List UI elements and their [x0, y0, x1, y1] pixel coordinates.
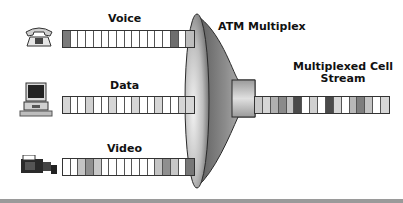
atm-cell [155, 159, 163, 175]
atm-cell [279, 97, 287, 113]
atm-cell [326, 97, 334, 113]
atm-cell [171, 159, 179, 175]
video-cell-row [62, 158, 195, 176]
atm-cell [109, 31, 117, 47]
data-cell-row [62, 96, 195, 114]
atm-cell [125, 31, 133, 47]
atm-cell [381, 97, 389, 113]
atm-cell [102, 97, 110, 113]
atm-cell [148, 159, 156, 175]
atm-cell [140, 159, 148, 175]
atm-cell [357, 97, 365, 113]
atm-cell [109, 97, 117, 113]
video-label: Video [107, 143, 142, 155]
atm-cell [63, 97, 71, 113]
atm-cell [102, 31, 110, 47]
atm-cell [334, 97, 342, 113]
atm-cell [179, 97, 187, 113]
atm-cell [179, 31, 187, 47]
atm-cell [302, 97, 310, 113]
data-label: Data [110, 80, 139, 92]
atm-cell [94, 97, 102, 113]
atm-cell [86, 31, 94, 47]
atm-cell [287, 97, 295, 113]
atm-cell [71, 97, 79, 113]
atm-cell [117, 159, 125, 175]
atm-cell [78, 31, 86, 47]
atm-cell [373, 97, 381, 113]
telephone-icon [24, 26, 54, 52]
atm-cell [148, 97, 156, 113]
atm-cell [94, 31, 102, 47]
atm-cell [155, 97, 163, 113]
atm-cell [310, 97, 318, 113]
atm-cell [148, 31, 156, 47]
atm-cell [71, 31, 79, 47]
atm-cell [63, 31, 71, 47]
atm-cell [171, 31, 179, 47]
atm-cell [140, 97, 148, 113]
output-label: Multiplexed Cell Stream [293, 61, 393, 85]
atm-cell [294, 97, 302, 113]
atm-cell [179, 159, 187, 175]
bottom-rule [0, 199, 403, 203]
voice-label: Voice [108, 13, 141, 25]
video-camera-icon [19, 155, 59, 181]
atm-cell [132, 159, 140, 175]
atm-cell [94, 159, 102, 175]
atm-cell [140, 31, 148, 47]
atm-cell [163, 31, 171, 47]
atm-cell [365, 97, 373, 113]
atm-cell [163, 159, 171, 175]
output-label-line2: Stream [293, 73, 393, 85]
atm-cell [318, 97, 326, 113]
atm-cell [63, 159, 71, 175]
atm-cell [186, 31, 194, 47]
atm-cell [125, 97, 133, 113]
atm-cell [86, 159, 94, 175]
atm-cell [171, 97, 179, 113]
atm-cell [263, 97, 271, 113]
computer-icon [18, 82, 54, 122]
atm-cell [102, 159, 110, 175]
atm-cell [342, 97, 350, 113]
atm-cell [186, 159, 194, 175]
atm-cell [78, 97, 86, 113]
atm-cell [117, 97, 125, 113]
atm-cell [109, 159, 117, 175]
multiplexed-cell-row [254, 96, 390, 114]
atm-cell [155, 31, 163, 47]
atm-cell [78, 159, 86, 175]
atm-cell [132, 31, 140, 47]
atm-cell [86, 97, 94, 113]
atm-cell [255, 97, 263, 113]
atm-cell [125, 159, 133, 175]
atm-cell [350, 97, 358, 113]
atm-cell [271, 97, 279, 113]
atm-cell [163, 97, 171, 113]
atm-cell [71, 159, 79, 175]
atm-cell [117, 31, 125, 47]
atm-cell [132, 97, 140, 113]
voice-cell-row [62, 30, 195, 48]
atm-cell [186, 97, 194, 113]
diagram-title: ATM Multiplex [218, 21, 306, 33]
